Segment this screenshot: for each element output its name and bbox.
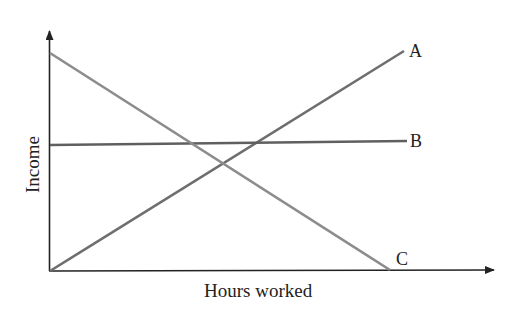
series-label-a: A: [409, 41, 422, 61]
line-a: [50, 51, 404, 271]
y-axis-label: Income: [22, 136, 43, 193]
income-hours-diagram: A B C Hours worked Income: [0, 0, 517, 309]
x-axis: [49, 270, 494, 271]
line-c: [50, 53, 390, 270]
series-label-b: B: [410, 131, 422, 151]
x-axis-label: Hours worked: [204, 280, 313, 301]
series-label-c: C: [396, 249, 408, 269]
line-b: [50, 141, 407, 145]
